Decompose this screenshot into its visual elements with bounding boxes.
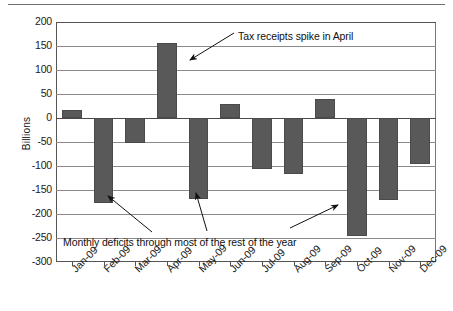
y-tick-label: 50 bbox=[0, 88, 52, 99]
bar-jul-09[interactable] bbox=[252, 118, 272, 169]
bar-chart: 200150100500-50-100-150-200-250-300 Jan-… bbox=[0, 0, 453, 311]
bar-slot bbox=[341, 22, 373, 262]
y-tick-label: -300 bbox=[0, 256, 52, 267]
bar-slot bbox=[183, 22, 215, 262]
bar-nov-09[interactable] bbox=[379, 118, 399, 200]
bar-sep-09[interactable] bbox=[315, 99, 335, 118]
y-tick-label: 150 bbox=[0, 40, 52, 51]
y-axis-title: Billions bbox=[21, 104, 32, 164]
chart-page: 200150100500-50-100-150-200-250-300 Jan-… bbox=[0, 0, 453, 311]
y-tick-label: 200 bbox=[0, 16, 52, 27]
bar-jan-09[interactable] bbox=[62, 110, 82, 118]
bar-oct-09[interactable] bbox=[347, 118, 367, 236]
bar-slot bbox=[404, 22, 436, 262]
bar-slot bbox=[246, 22, 278, 262]
y-tick-label: -250 bbox=[0, 232, 52, 243]
bar-dec-09[interactable] bbox=[410, 118, 430, 164]
bar-jun-09[interactable] bbox=[220, 104, 240, 118]
annotation-deficits: Monthly deficits through most of the res… bbox=[63, 236, 296, 248]
bar-slot bbox=[119, 22, 151, 262]
y-tick-label: -200 bbox=[0, 208, 52, 219]
y-tick-label: -150 bbox=[0, 184, 52, 195]
bar-slot bbox=[56, 22, 88, 262]
bar-slot bbox=[309, 22, 341, 262]
bar-slot bbox=[88, 22, 120, 262]
bar-slot bbox=[278, 22, 310, 262]
bar-apr-09[interactable] bbox=[157, 43, 177, 118]
bar-slot bbox=[214, 22, 246, 262]
bar-aug-09[interactable] bbox=[284, 118, 304, 174]
bars-group bbox=[56, 22, 436, 262]
annotation-april-spike: Tax receipts spike in April bbox=[238, 30, 353, 42]
bar-slot bbox=[151, 22, 183, 262]
bar-may-09[interactable] bbox=[189, 118, 209, 199]
bar-mar-09[interactable] bbox=[125, 118, 145, 143]
y-tick-label: 100 bbox=[0, 64, 52, 75]
bar-slot bbox=[373, 22, 405, 262]
bar-feb-09[interactable] bbox=[94, 118, 114, 203]
